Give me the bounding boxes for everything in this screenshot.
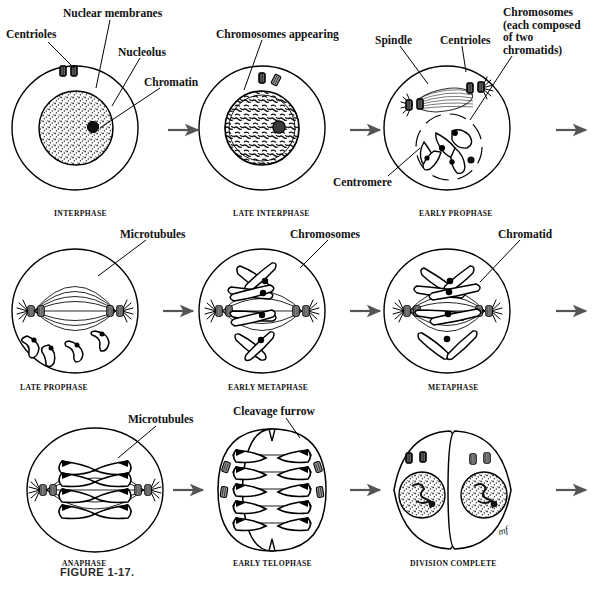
cell-early-metaphase	[199, 249, 325, 373]
callout-nuclear-membranes: Nuclear membranes	[63, 7, 162, 20]
callout-chromosomes-appearing: Chromosomes appearing	[216, 28, 339, 41]
cell-late-prophase	[12, 249, 138, 373]
stage-label-metaphase: METAPHASE	[428, 383, 479, 392]
callout-chromosomes-2: Chromosomes	[290, 228, 360, 241]
callout-chromosomes-two-chromatids: Chromosomes (each composed of two chroma…	[503, 6, 581, 56]
cell-early-telophase	[218, 429, 326, 551]
callout-cleavage-furrow: Cleavage furrow	[233, 405, 315, 418]
stage-label-early-telophase: EARLY TELOPHASE	[233, 559, 312, 568]
callout-centrioles-1: Centrioles	[6, 28, 56, 41]
callout-microtubules-2: Microtubules	[128, 413, 194, 426]
stage-label-early-metaphase: EARLY METAPHASE	[228, 383, 308, 392]
cell-interphase	[12, 66, 138, 190]
cell-anaphase	[27, 428, 163, 552]
callout-nucleolus: Nucleolus	[118, 46, 166, 59]
stage-label-early-prophase: EARLY PROPHASE	[419, 209, 493, 218]
stage-label-late-interphase: LATE INTERPHASE	[233, 209, 310, 218]
stage-label-interphase: INTERPHASE	[54, 209, 107, 218]
figure-caption: FIGURE 1-17.	[60, 566, 135, 578]
stage-label-division-complete: DIVISION COMPLETE	[410, 559, 497, 568]
leader-line-chromatid	[480, 240, 520, 282]
callout-microtubules-1: Microtubules	[120, 228, 186, 241]
cell-division-complete	[394, 431, 511, 549]
callout-chromatin: Chromatin	[144, 76, 198, 89]
leader-line-chromosomes-2	[300, 240, 328, 268]
cell-metaphase	[384, 249, 510, 373]
mitosis-artwork	[0, 0, 596, 589]
stage-label-late-prophase: LATE PROPHASE	[20, 383, 88, 392]
cell-late-interphase	[199, 66, 325, 190]
mitosis-figure: CentriolesNuclear membranesNucleolusChro…	[0, 0, 596, 589]
leader-line-centrioles-1	[48, 42, 74, 68]
callout-centromere: Centromere	[333, 176, 392, 189]
cell-early-prophase	[384, 66, 510, 190]
callout-spindle: Spindle	[375, 34, 412, 47]
callout-centrioles-2: Centrioles	[440, 34, 490, 47]
callout-chromatid: Chromatid	[498, 228, 552, 241]
